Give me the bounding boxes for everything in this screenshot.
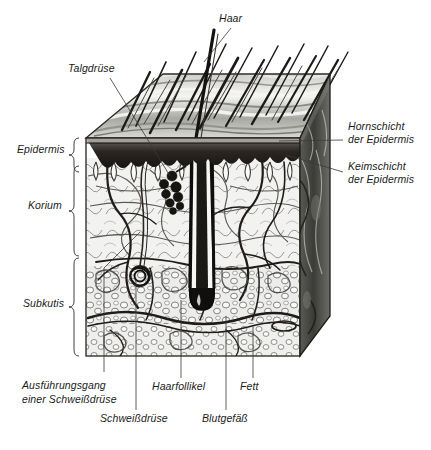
label-blutgefaess: Blutgefäß [202, 412, 248, 425]
skin-front-face [86, 138, 300, 356]
label-haarfollikel: Haarfollikel [152, 380, 205, 393]
label-ausfuehrungsgang-line2: einer Schweißdrüse [22, 393, 117, 406]
skin-cross-section-figure: Haar Talgdrüse Epidermis Korium Subkutis… [0, 0, 431, 450]
label-subkutis: Subkutis [23, 297, 64, 310]
label-schweissdruese: Schweißdrüse [100, 412, 168, 425]
leader-haar [204, 28, 231, 62]
label-korium: Korium [28, 199, 62, 212]
label-talgdruese: Talgdrüse [68, 62, 115, 75]
label-hornschicht-line2: der Epidermis [348, 133, 414, 146]
label-keimschicht-line1: Keimschicht [348, 160, 406, 173]
brace-korium [69, 166, 79, 256]
label-haar: Haar [219, 12, 242, 25]
label-fett: Fett [240, 380, 259, 393]
label-epidermis: Epidermis [17, 143, 65, 156]
layer-braces [69, 138, 79, 356]
label-hornschicht-line1: Hornschicht [348, 120, 405, 133]
label-ausfuehrungsgang-line1: Ausführungsgang [22, 379, 106, 392]
brace-epidermis [69, 138, 79, 172]
label-keimschicht-line2: der Epidermis [348, 173, 414, 186]
brace-subkutis [69, 258, 79, 356]
